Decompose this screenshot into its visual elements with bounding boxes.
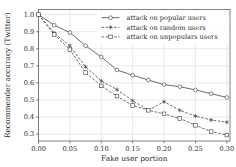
- data-point-circle: [99, 55, 103, 59]
- line-chart: 0.000.050.100.150.200.250.300.30.40.50.6…: [0, 0, 236, 167]
- legend-label-1: attack on popular users: [127, 14, 207, 22]
- data-point-square: [68, 48, 72, 52]
- data-point-circle: [68, 31, 72, 35]
- data-point-circle: [109, 16, 113, 20]
- data-point-circle: [147, 78, 151, 82]
- x-axis-title: Fake user portion: [101, 154, 168, 163]
- data-point-circle: [115, 68, 119, 72]
- data-point-square: [225, 133, 229, 137]
- x-tick-label: 0.15: [125, 145, 140, 153]
- data-point-square: [162, 112, 166, 116]
- x-tick-label: 0.20: [157, 145, 172, 153]
- legend-label-2: attack on random users: [127, 24, 207, 32]
- x-tick-label: 0.30: [220, 145, 235, 153]
- data-point-square: [209, 130, 213, 134]
- data-point-square: [52, 33, 56, 37]
- x-tick-label: 0.10: [94, 145, 109, 153]
- data-point-circle: [178, 85, 182, 89]
- chart-figure: 0.000.050.100.150.200.250.300.30.40.50.6…: [0, 0, 236, 167]
- data-point-square: [194, 123, 198, 127]
- y-axis-title: Recommender accuracy (Twitter): [3, 12, 12, 138]
- data-point-circle: [84, 44, 88, 48]
- data-point-circle: [225, 96, 229, 100]
- data-point-circle: [209, 92, 213, 96]
- data-point-square: [84, 71, 88, 75]
- chart-legend: attack on popular usersattack on random …: [98, 12, 229, 44]
- data-point-square: [147, 108, 151, 112]
- y-tick-label: 0.3: [24, 130, 35, 138]
- y-tick-label: 0.6: [24, 79, 35, 87]
- y-tick-label: 1.0: [24, 11, 35, 19]
- data-point-square: [178, 117, 182, 121]
- data-point-square: [37, 13, 41, 17]
- x-tick-label: 0.05: [63, 145, 78, 153]
- x-tick-label: 0.25: [188, 145, 203, 153]
- y-tick-label: 0.5: [24, 96, 35, 104]
- y-tick-label: 0.7: [24, 62, 35, 70]
- y-tick-label: 0.9: [24, 28, 35, 36]
- x-tick-label: 0.00: [31, 145, 46, 153]
- y-tick-label: 0.4: [24, 113, 35, 121]
- data-point-square: [109, 35, 113, 39]
- data-point-circle: [52, 23, 56, 27]
- data-point-circle: [194, 88, 198, 92]
- y-tick-label: 0.8: [24, 45, 35, 53]
- data-point-square: [131, 104, 135, 108]
- data-point-square: [99, 84, 103, 88]
- legend-label-3: attack on unpopulars users: [127, 33, 219, 41]
- data-point-square: [115, 94, 119, 98]
- data-point-circle: [162, 83, 166, 87]
- data-point-circle: [131, 73, 135, 77]
